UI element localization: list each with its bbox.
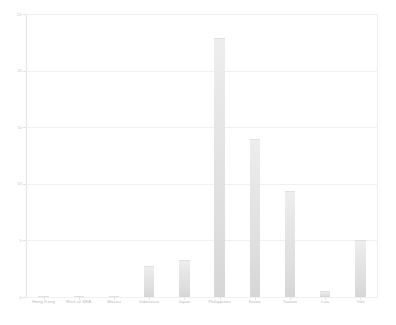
bar — [179, 260, 190, 297]
y-tick-label-15: 15 — [0, 125, 22, 130]
x-tick-label: Korea — [237, 299, 272, 305]
x-tick-label: Philippines — [202, 299, 237, 305]
bar-chart: 0510152025 Hong KongRest of SEAMacauIndo… — [0, 0, 396, 325]
x-tick-label: Hong Kong — [26, 299, 61, 305]
y-tick-label-20: 20 — [0, 68, 22, 73]
bar — [355, 240, 366, 297]
bar-slot — [109, 14, 120, 297]
bar-slot — [38, 14, 49, 297]
bar-slot — [355, 14, 366, 297]
x-tick-label: Indonesia — [132, 299, 167, 305]
y-tick-label-0: 0 — [0, 295, 22, 300]
bar — [285, 191, 296, 297]
bar-series — [26, 14, 378, 297]
y-tick-label-10: 10 — [0, 181, 22, 186]
x-tick-label: Macau — [96, 299, 131, 305]
bar — [214, 38, 225, 297]
x-tick-label: Viet — [343, 299, 378, 305]
x-tick-label: Lao — [308, 299, 343, 305]
bar-slot — [214, 14, 225, 297]
x-tick-label: Japan — [167, 299, 202, 305]
bar — [250, 139, 261, 297]
bar-slot — [250, 14, 261, 297]
bar-slot — [74, 14, 85, 297]
bar-slot — [285, 14, 296, 297]
bar-slot — [144, 14, 155, 297]
x-tick-label: Rest of SEA — [61, 299, 96, 305]
bar-slot — [320, 14, 331, 297]
y-tick-label-25: 25 — [0, 12, 22, 17]
bar-slot — [179, 14, 190, 297]
x-tick-label: Taiwan — [272, 299, 307, 305]
bar — [144, 266, 155, 297]
y-tick-label-5: 5 — [0, 238, 22, 243]
x-axis-labels: Hong KongRest of SEAMacauIndonesiaJapanP… — [26, 299, 378, 311]
y-tick-mark-0 — [23, 297, 26, 298]
